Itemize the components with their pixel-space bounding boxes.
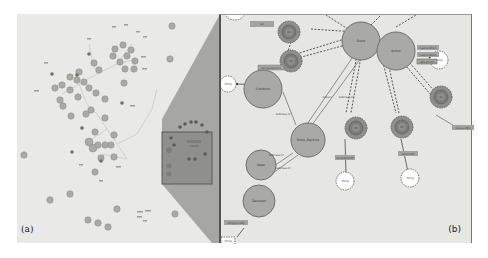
svg-text:isActionOf: isActionOf (401, 153, 414, 156)
class-node-transition[interactable]: Transition (243, 185, 275, 217)
svg-text:hasCondition: hasCondition (420, 47, 437, 50)
overview-graph-canvas (17, 14, 219, 243)
svg-text:Thing: Thing (224, 240, 232, 243)
svg-text:isConditionOf: isConditionOf (336, 157, 353, 160)
svg-text:Condition: Condition (256, 87, 270, 91)
svg-text:isConsequence: isConsequence (261, 67, 281, 70)
thing-node-2[interactable]: Thing (221, 76, 236, 92)
svg-text:(R): (R) (439, 96, 443, 99)
thing-node-6[interactable]: Thing (221, 237, 235, 244)
svg-text:hasCondition: hasCondition (420, 54, 437, 57)
overview-label-tags (34, 24, 151, 222)
svg-text:Action: Action (391, 49, 400, 53)
svg-text:Subclass of: Subclass of (339, 96, 354, 99)
svg-text:isRelatedTo: isRelatedTo (420, 61, 435, 64)
svg-text:isTriggeredBy: isTriggeredBy (227, 222, 245, 225)
panel-b-detail-graph: Event Action Condition Room_Machine Stat… (219, 14, 472, 243)
svg-text:(R): (R) (400, 126, 404, 129)
restriction-node-4[interactable]: (R) (391, 116, 413, 138)
overview-class-nodes (21, 23, 178, 230)
restriction-node-1[interactable]: (R) (278, 21, 300, 43)
panel-b-label: (b) (448, 224, 461, 234)
svg-text:Subset: Subset (323, 96, 332, 99)
svg-text:State: State (257, 163, 265, 167)
panel-a-label: (a) (21, 224, 33, 234)
svg-text:Room_Machine: Room_Machine (297, 138, 320, 142)
zoom-wedge (162, 16, 219, 243)
svg-text:(R): (R) (289, 60, 293, 63)
overview-edges (62, 44, 157, 159)
svg-text:Thing: Thing (406, 177, 414, 180)
svg-text:Subclass of: Subclass of (276, 167, 291, 170)
thing-node-5[interactable]: Thing (401, 169, 419, 187)
thing-node-1[interactable] (226, 15, 244, 20)
svg-text:isIn: isIn (260, 23, 265, 26)
thing-node-4[interactable]: Thing (336, 172, 354, 190)
class-node-event[interactable]: Event (342, 22, 380, 60)
class-node-action[interactable]: Action (377, 32, 415, 70)
restriction-node-5[interactable]: (R) (430, 86, 452, 108)
svg-text:Subclass of: Subclass of (276, 113, 291, 116)
svg-text:(R): (R) (287, 31, 291, 34)
detail-graph-canvas: Event Action Condition Room_Machine Stat… (221, 15, 474, 244)
class-node-condition[interactable]: Condition (244, 70, 282, 108)
restriction-node-3[interactable]: (R) (345, 117, 367, 139)
class-node-room-machine[interactable]: Room_Machine (291, 123, 325, 157)
svg-text:Thing: Thing (224, 83, 232, 86)
svg-text:Thing: Thing (341, 180, 349, 183)
panel-a-overview-graph: (a) (17, 14, 219, 243)
svg-text:(R): (R) (354, 127, 358, 130)
svg-text:Subclass of: Subclass of (269, 154, 284, 157)
svg-text:Event: Event (357, 39, 366, 43)
svg-text:Transition: Transition (251, 199, 267, 203)
svg-text:isCausedBy: isCausedBy (455, 127, 470, 130)
